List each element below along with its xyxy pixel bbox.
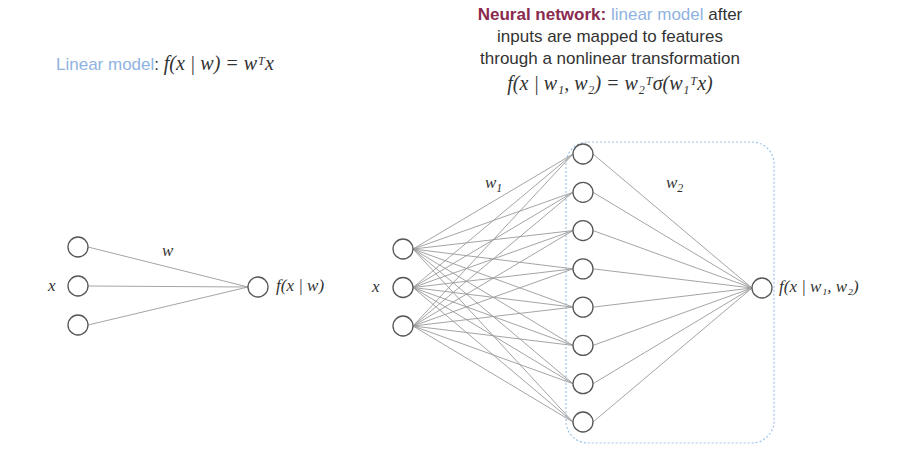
nn-edge-w1 [413,269,573,326]
nn-hidden-node [573,144,593,164]
nn-after-text: after [708,5,742,24]
nn-hidden-node [573,182,593,202]
nn-edge-w2 [593,288,752,384]
nn-edge-w1 [413,231,573,326]
nn-edge-w2 [593,288,752,307]
linear-input-label: x [48,276,56,296]
nn-edge-w1 [413,326,573,345]
linear-edge [88,287,248,325]
nn-edge-w1 [413,192,573,326]
nn-edge-w2 [593,288,752,422]
nn-edge-w2 [593,269,752,288]
nn-output-label: f(x | w₁, w₂) [779,277,859,297]
nn-edge-w1 [413,326,573,422]
nn-output-node [752,278,772,298]
nn-title-line2: inputs are mapped to features [440,26,780,48]
neural-network-title: Neural network: linear model after input… [440,4,780,94]
nn-hidden-node [573,259,593,279]
nn-weight2-label: w2 [666,173,683,196]
linear-output-label: f(x | w) [276,276,324,296]
nn-input-node [393,239,413,259]
nn-weight1-label: w1 [485,173,502,196]
linear-output-node [248,277,268,297]
linear-input-node [68,315,88,335]
nn-hidden-node [573,374,593,394]
nn-edge-w2 [593,192,752,288]
nn-linear-model-text: linear model [611,5,704,24]
linear-model-title: Linear model: f(x | w) = wᵀx [56,52,274,75]
linear-model-formula: f(x | w) = wᵀx [164,52,274,74]
diagram-canvas: Linear model: f(x | w) = wᵀx Neural netw… [0,0,907,456]
linear-edge [88,286,248,287]
neural-network-label: Neural network: [478,5,606,24]
nn-input-node [393,316,413,336]
nn-edge-w1 [413,326,573,384]
nn-edge-w2 [593,231,752,288]
linear-weight-label: w [162,241,173,261]
linear-model-label: Linear model [56,55,154,74]
nn-hidden-node [573,297,593,317]
nn-edge-w1 [413,307,573,326]
nn-edge-w2 [593,288,752,345]
nn-formula: f(x | w₁, w₂) = w₂ᵀσ(w₁ᵀx) [440,72,780,94]
nn-edge-w1 [413,154,573,249]
nn-hidden-node [573,335,593,355]
nn-input-node [393,278,413,298]
nn-hidden-node [573,221,593,241]
nn-input-label: x [372,277,380,297]
nn-hidden-node [573,412,593,432]
linear-input-node [68,237,88,257]
linear-input-node [68,276,88,296]
nn-title-line1: Neural network: linear model after [440,4,780,26]
colon: : [154,55,159,74]
nn-title-line3: through a nonlinear transformation [440,48,780,70]
